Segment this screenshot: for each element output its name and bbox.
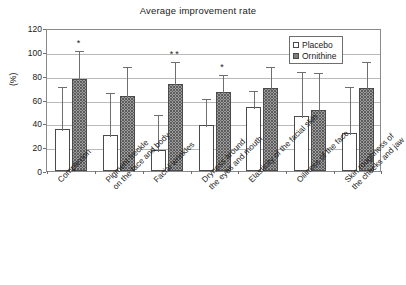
error-bar-cap xyxy=(249,91,258,92)
error-bar-cap xyxy=(297,72,306,73)
legend-label-placebo: Placebo xyxy=(302,40,333,50)
error-bar-stem xyxy=(206,99,207,127)
error-bar-cap xyxy=(266,67,275,68)
error-bar-stem xyxy=(175,62,176,86)
y-tick-label: 100 xyxy=(18,48,42,58)
legend-item-ornithine: Ornithine xyxy=(293,50,337,61)
error-bar-stem xyxy=(271,67,272,90)
error-bar-stem xyxy=(302,72,303,117)
error-bar-stem xyxy=(79,51,80,80)
significance-marker: * xyxy=(211,64,235,70)
gridline xyxy=(47,102,380,103)
x-tick-mark xyxy=(95,171,96,174)
error-bar-stem xyxy=(350,87,351,135)
error-bar-stem xyxy=(367,62,368,89)
chart-legend: Placebo Ornithine xyxy=(289,36,343,64)
y-tick-label: 40 xyxy=(18,119,42,129)
error-bar-stem xyxy=(223,75,224,93)
error-bar-stem xyxy=(127,67,128,98)
y-tick-mark xyxy=(43,148,46,149)
error-bar-stem xyxy=(254,91,255,108)
x-tick-mark xyxy=(238,171,239,174)
gridline xyxy=(47,125,380,126)
error-bar-stem xyxy=(110,93,111,137)
error-bar-stem xyxy=(62,87,63,130)
error-bar-cap xyxy=(202,99,211,100)
x-tick-mark xyxy=(143,171,144,174)
y-tick-label: 60 xyxy=(18,96,42,106)
legend-swatch-ornithine-icon xyxy=(293,53,299,59)
y-tick-label: 0 xyxy=(18,167,42,177)
x-tick-mark xyxy=(381,171,382,174)
y-tick-mark xyxy=(43,124,46,125)
error-bar-cap xyxy=(219,75,228,76)
legend-item-placebo: Placebo xyxy=(293,39,337,50)
error-bar-cap xyxy=(171,62,180,63)
legend-label-ornithine: Ornithine xyxy=(302,51,337,61)
y-tick-mark xyxy=(43,53,46,54)
significance-marker: * xyxy=(67,40,91,46)
y-tick-label: 120 xyxy=(18,24,42,34)
y-tick-mark xyxy=(43,77,46,78)
error-bar-cap xyxy=(58,87,67,88)
error-bar-cap xyxy=(345,87,354,88)
error-bar-cap xyxy=(154,115,163,116)
y-axis-label: (%) xyxy=(8,73,18,86)
legend-swatch-placebo-icon xyxy=(293,42,299,48)
significance-marker: ** xyxy=(163,51,187,57)
y-tick-mark xyxy=(43,101,46,102)
gridline xyxy=(47,78,380,79)
x-tick-mark xyxy=(334,171,335,174)
x-tick-mark xyxy=(47,171,48,174)
error-bar-cap xyxy=(123,67,132,68)
error-bar-stem xyxy=(319,73,320,112)
y-tick-label: 20 xyxy=(18,143,42,153)
x-tick-mark xyxy=(191,171,192,174)
error-bar-cap xyxy=(106,93,115,94)
error-bar-cap xyxy=(314,73,323,74)
x-tick-mark xyxy=(286,171,287,174)
y-tick-label: 80 xyxy=(18,72,42,82)
chart-title: Average improvement rate xyxy=(0,5,396,16)
error-bar-cap xyxy=(75,51,84,52)
y-tick-mark xyxy=(43,172,46,173)
bar-placebo-3 xyxy=(199,125,214,171)
error-bar-cap xyxy=(362,62,371,63)
y-tick-mark xyxy=(43,29,46,30)
